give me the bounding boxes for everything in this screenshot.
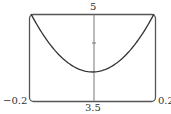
viewing-window-frame <box>30 15 156 102</box>
y-max-label: 5 <box>90 2 96 12</box>
x-min-label: −0.2 <box>3 96 27 106</box>
x-max-label: 0.2 <box>158 96 171 106</box>
y-min-label: 3.5 <box>85 103 101 113</box>
